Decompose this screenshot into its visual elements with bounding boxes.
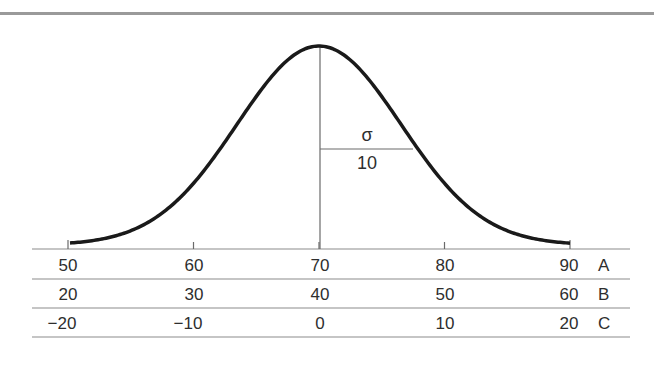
tick-label: 40	[311, 285, 330, 305]
tick-label: 0	[315, 314, 324, 334]
tick-label: 20	[560, 314, 579, 334]
tick-label: 50	[59, 256, 78, 276]
tick-label: 50	[436, 285, 455, 305]
tick-label: −10	[174, 314, 203, 334]
tick-label: 30	[185, 285, 204, 305]
tick-label: 90	[560, 256, 579, 276]
tick-label: 80	[436, 256, 455, 276]
tick-label: 60	[560, 285, 579, 305]
sigma-symbol: σ	[361, 125, 372, 145]
tick-marks	[68, 240, 570, 249]
tick-label: −20	[48, 314, 77, 334]
tick-label: 20	[59, 285, 78, 305]
scale-name-a: A	[598, 256, 609, 276]
sigma-value: 10	[357, 153, 377, 173]
normal-curve-plot	[0, 0, 654, 366]
tick-label: 70	[311, 256, 330, 276]
tick-label: 10	[436, 314, 455, 334]
scale-name-b: B	[598, 285, 609, 305]
scale-name-c: C	[598, 314, 610, 334]
tick-label: 60	[185, 256, 204, 276]
